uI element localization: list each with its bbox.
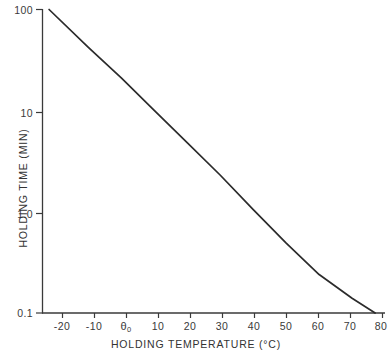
x-tick-label-minus20: -20: [54, 320, 70, 332]
data-series-line: [49, 10, 375, 314]
theta-symbol: θ: [120, 320, 127, 332]
x-tick-label-10: 10: [152, 320, 164, 332]
y-tick-label-100: 100: [0, 4, 33, 16]
x-tick-label-theta-zero: θ0: [120, 320, 131, 332]
x-tick-label-30: 30: [216, 320, 228, 332]
semilog-line-plot: [0, 0, 392, 358]
x-tick-label-50: 50: [280, 320, 292, 332]
x-tick-label-minus10: -10: [86, 320, 102, 332]
x-tick-marks: [63, 313, 383, 318]
y-axis-title: HOLDING TIME (MIN): [17, 88, 29, 288]
x-axis-title: HOLDING TEMPERATURE (°C): [0, 338, 392, 350]
x-tick-label-40: 40: [248, 320, 260, 332]
x-tick-label-20: 20: [184, 320, 196, 332]
x-tick-label-80: 80: [375, 320, 387, 332]
x-tick-label-60: 60: [312, 320, 324, 332]
y-tick-marks: [36, 10, 43, 314]
x-tick-label-70: 70: [344, 320, 356, 332]
chart-figure: 100 10 1.0 0.1 -20 -10 θ0 10 20 30 40 50…: [0, 0, 392, 358]
theta-subscript: 0: [127, 325, 132, 334]
y-tick-label-0.1: 0.1: [0, 307, 33, 319]
